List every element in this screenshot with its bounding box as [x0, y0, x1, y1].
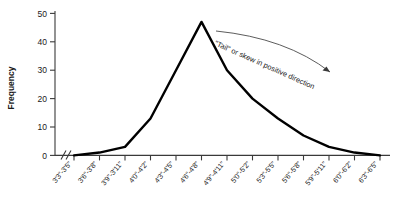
skew-annotation-text: "Tail" or skew in positive direction [213, 39, 316, 91]
y-tick-label: 50 [38, 9, 48, 19]
x-tick-label: 6'0"-6'2" [331, 159, 355, 185]
x-tick-label: 3'3"-3'5" [50, 159, 74, 185]
x-axis-ticks [74, 155, 380, 160]
y-tick-label: 40 [38, 37, 48, 47]
x-tick-label: 6'3"-6'5" [356, 159, 380, 185]
x-tick-label: 4'9"-4'11" [201, 159, 227, 187]
x-tick-label: 5'6"-5'8" [280, 159, 304, 185]
frequency-curve [74, 22, 380, 155]
x-tick-label: 4'6"-4'8" [178, 159, 202, 185]
x-axis-labels: 3'3"-3'5" 3'6"-3'8" 3'9"-3'11" 4'0"-4'2"… [50, 159, 380, 187]
x-tick-label: 4'0"-4'2" [127, 159, 151, 185]
frequency-polygon-chart: Frequency 50 40 30 20 10 0 [0, 0, 399, 211]
y-axis-ticks: 50 40 30 20 10 0 [38, 9, 55, 161]
y-tick-label: 30 [38, 65, 48, 75]
x-tick-label: 5'0"-5'2" [229, 159, 253, 185]
x-tick-label: 3'9"-3'11" [99, 159, 125, 187]
x-tick-label: 4'3"-4'5" [152, 159, 176, 185]
y-axis-label: Frequency [6, 66, 16, 109]
x-tick-label: 5'9"-5'11" [303, 159, 329, 187]
y-tick-label: 10 [38, 122, 48, 132]
chart-svg: Frequency 50 40 30 20 10 0 [0, 0, 399, 211]
x-tick-label: 5'3"-5'5" [254, 159, 278, 185]
y-tick-label: 0 [42, 151, 47, 161]
y-tick-label: 20 [38, 94, 48, 104]
x-tick-label: 3'6"-3'8" [76, 159, 100, 185]
